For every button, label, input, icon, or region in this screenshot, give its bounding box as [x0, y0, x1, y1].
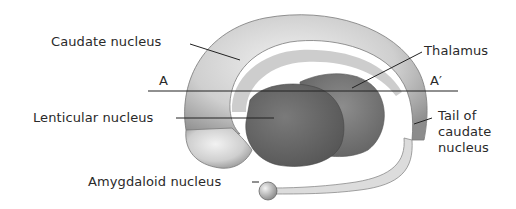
label-tail-line3: nucleus — [438, 140, 489, 156]
amygdaloid-nucleus-shape — [259, 182, 277, 200]
label-tail-line1: Tail of — [438, 108, 476, 124]
label-lenticular-nucleus: Lenticular nucleus — [33, 110, 153, 126]
lenticular-nucleus-shape — [246, 84, 344, 166]
label-tail-line2: caudate — [438, 124, 491, 140]
anatomy-illustration — [0, 0, 516, 209]
label-section-a-prime: A′ — [430, 73, 442, 89]
label-section-a: A — [159, 73, 168, 89]
label-thalamus: Thalamus — [424, 43, 488, 59]
basal-ganglia-diagram: Caudate nucleus Thalamus A A′ Lenticular… — [0, 0, 516, 209]
label-caudate-nucleus: Caudate nucleus — [51, 34, 161, 50]
label-amygdaloid-nucleus: Amygdaloid nucleus — [88, 174, 221, 190]
